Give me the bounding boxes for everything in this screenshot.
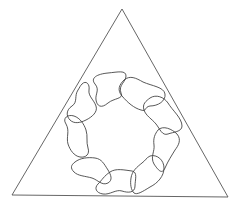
blob-top-right	[119, 77, 165, 110]
blob-bottom-left	[71, 158, 111, 184]
blob-ring	[65, 72, 182, 194]
blob-left-upper	[67, 82, 96, 122]
triangle-ring-diagram	[0, 0, 243, 208]
enclosing-triangle	[12, 9, 228, 197]
blob-right-upper	[143, 96, 182, 134]
blob-bottom	[96, 170, 136, 195]
blob-left-lower	[65, 115, 89, 157]
blob-top-left	[93, 72, 126, 106]
diagram-canvas	[0, 0, 243, 208]
